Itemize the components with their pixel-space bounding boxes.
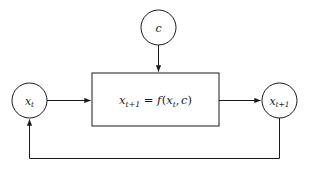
equation-close-paren: ): [187, 93, 192, 107]
label-control-input-base: c: [155, 22, 161, 35]
block-diagram-svg: xt c xt+1 xt+1=f(xt,c): [0, 0, 311, 171]
diagram-canvas: xt c xt+1 xt+1=f(xt,c): [0, 0, 311, 171]
equation-comma: ,: [176, 93, 180, 107]
equation-lhs-sub: t+1: [126, 100, 141, 109]
label-control-input: c: [155, 22, 161, 35]
label-state-next-sub: t+1: [276, 100, 290, 109]
node-transition-function[interactable]: [92, 73, 219, 126]
equation-operator: =: [144, 93, 154, 107]
